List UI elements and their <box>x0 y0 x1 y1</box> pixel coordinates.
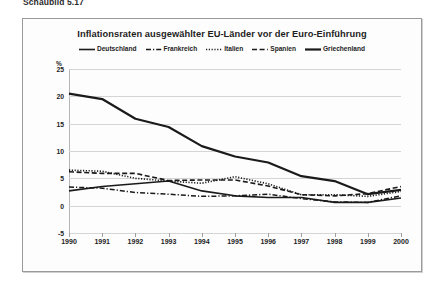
y-axis-tick-label: 10 <box>56 148 64 155</box>
x-axis-tick-mark <box>135 233 136 237</box>
chart-title: Inflationsraten ausgewählter EU-Länder v… <box>23 29 421 39</box>
legend-item-label: Italien <box>224 46 243 53</box>
legend-item-label: Spanien <box>270 46 296 53</box>
y-axis-tick-label: 25 <box>56 66 64 73</box>
legend-line-swatch-icon <box>146 46 162 53</box>
x-axis-tick-mark <box>268 233 269 237</box>
legend-line-swatch-icon <box>206 46 222 53</box>
chart-legend: DeutschlandFrankreichItalienSpanienGriec… <box>23 46 421 53</box>
plot-area: 2520151050-5 199019911992199319941995199… <box>69 69 401 233</box>
chart-container: Inflationsraten ausgewählter EU-Länder v… <box>22 18 422 272</box>
x-axis-tick-label: 1999 <box>360 238 376 245</box>
x-axis-tick-mark <box>368 233 369 237</box>
y-axis-tick-label: -5 <box>58 230 64 237</box>
plot-wrapper: % 2520151050-5 1990199119921993199419951… <box>23 59 423 271</box>
x-axis-tick-label: 1990 <box>61 238 77 245</box>
y-axis-tick-label: 15 <box>56 120 64 127</box>
x-axis-tick-mark <box>102 233 103 237</box>
x-axis-tick-mark <box>202 233 203 237</box>
y-axis-tick-label: 20 <box>56 93 64 100</box>
series-line-spanien <box>69 172 401 196</box>
legend-line-swatch-icon <box>305 46 321 53</box>
x-axis-tick-mark <box>235 233 236 237</box>
x-axis-tick-mark <box>335 233 336 237</box>
x-axis-tick-label: 2000 <box>393 238 409 245</box>
x-axis-tick-mark <box>401 233 402 237</box>
x-axis-tick-label: 1992 <box>128 238 144 245</box>
legend-item-label: Deutschland <box>97 46 137 53</box>
x-axis-tick-label: 1991 <box>94 238 110 245</box>
legend-item-frankreich[interactable]: Frankreich <box>146 46 198 53</box>
legend-item-spanien[interactable]: Spanien <box>252 46 296 53</box>
legend-item-label: Frankreich <box>164 46 198 53</box>
x-axis-tick-label: 1994 <box>194 238 210 245</box>
y-axis-tick-label: 0 <box>60 202 64 209</box>
series-line-griechenland <box>69 94 401 195</box>
legend-item-griechenland[interactable]: Griechenland <box>305 46 365 53</box>
x-axis-tick-label: 1998 <box>327 238 343 245</box>
figure-caption: Schaubild 5.17 <box>23 0 84 7</box>
x-axis-tick-label: 1993 <box>161 238 177 245</box>
y-axis-tick-label: 5 <box>60 175 64 182</box>
x-axis-tick-mark <box>169 233 170 237</box>
series-line-deutschland <box>69 181 401 202</box>
series-lines <box>69 69 401 233</box>
legend-line-swatch-icon <box>79 46 95 53</box>
x-axis-tick-label: 1996 <box>260 238 276 245</box>
legend-item-label: Griechenland <box>323 46 365 53</box>
x-axis-tick-label: 1995 <box>227 238 243 245</box>
x-axis-tick-label: 1997 <box>294 238 310 245</box>
legend-item-deutschland[interactable]: Deutschland <box>79 46 137 53</box>
legend-line-swatch-icon <box>252 46 268 53</box>
legend-item-italien[interactable]: Italien <box>206 46 243 53</box>
x-axis-tick-mark <box>301 233 302 237</box>
x-axis-tick-mark <box>69 233 70 237</box>
